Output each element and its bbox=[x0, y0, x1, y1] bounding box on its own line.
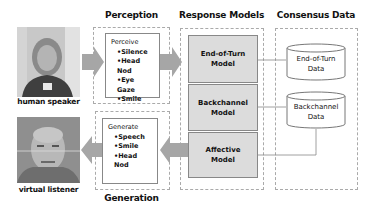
arrow-speaker-to-perception-icon bbox=[82, 47, 104, 77]
connectors-overlay bbox=[0, 0, 376, 209]
connector-affective bbox=[258, 129, 316, 155]
arrow-models-to-generation-icon bbox=[160, 136, 188, 164]
arrow-generation-to-listener-icon bbox=[81, 136, 102, 164]
arrow-perception-to-models-icon bbox=[160, 47, 182, 77]
